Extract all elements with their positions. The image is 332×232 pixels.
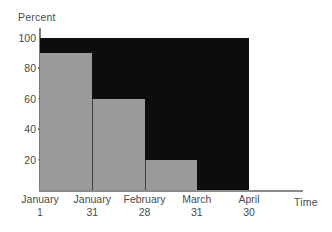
y-tick-label: 100 [18,32,36,44]
x-axis-line [39,190,303,192]
x-tick-label: February28 [123,193,165,218]
x-tick-day: 28 [123,206,165,219]
bar [145,160,197,190]
bar [92,99,144,190]
x-tick-day: 1 [21,206,58,219]
y-tick-label: 40 [24,123,36,135]
y-tick-label: 20 [24,154,36,166]
x-tick-day: 30 [238,206,259,219]
y-axis-title: Percent [18,11,56,23]
plot-area [40,38,249,190]
x-tick-day: 31 [74,206,111,219]
x-axis-title: Time [294,196,318,208]
x-tick-month: February [123,193,165,206]
x-tick-day: 31 [182,206,211,219]
x-tick-label: March31 [182,193,211,218]
x-tick-month: January [21,193,58,206]
x-tick-month: January [74,193,111,206]
percent-vs-time-chart: Percent Time 10080604020 January1January… [0,0,332,232]
x-tick-month: April [238,193,259,206]
bar [40,53,92,190]
bar-divider [145,160,146,190]
x-tick-label: April30 [238,193,259,218]
y-tick-label: 60 [24,93,36,105]
x-tick-label: January1 [21,193,58,218]
y-tick-label: 80 [24,62,36,74]
x-tick-month: March [182,193,211,206]
bar-divider [92,99,93,190]
x-tick-label: January31 [74,193,111,218]
